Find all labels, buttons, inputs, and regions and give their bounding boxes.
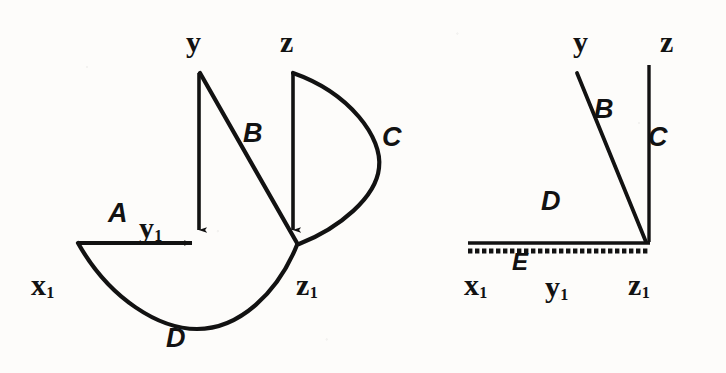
diagram-canvas bbox=[0, 0, 726, 373]
edge-b-line bbox=[200, 73, 297, 243]
label-node-x1-right: x1 bbox=[464, 270, 487, 300]
label-edge-c-left: C bbox=[382, 124, 402, 151]
label-node-y1-left: y1 bbox=[139, 213, 162, 243]
edge-d-curve bbox=[78, 243, 297, 329]
label-edge-a-left: A bbox=[108, 200, 128, 227]
label-node-z1-left: z1 bbox=[296, 270, 318, 300]
label-edge-e-right: E bbox=[512, 250, 528, 274]
label-node-y-right: y bbox=[573, 27, 588, 57]
label-node-x1-left: x1 bbox=[31, 270, 54, 300]
label-edge-c-right: C bbox=[648, 124, 668, 151]
edge-c-arc bbox=[293, 73, 379, 244]
label-node-z-right: z bbox=[660, 27, 673, 57]
label-edge-d-right: D bbox=[541, 188, 561, 215]
label-node-y-left: y bbox=[186, 27, 201, 57]
figure-root: y z x1 y1 z1 A B C D y z x1 y1 z1 B C D … bbox=[0, 0, 726, 373]
right-panel-geometry bbox=[468, 65, 650, 251]
label-edge-b-left: B bbox=[243, 120, 263, 147]
label-edge-d-left: D bbox=[166, 325, 186, 352]
label-node-z1-right: z1 bbox=[628, 270, 650, 300]
label-edge-b-right: B bbox=[594, 96, 614, 123]
label-node-y1-right: y1 bbox=[545, 272, 568, 302]
label-node-z-left: z bbox=[280, 27, 293, 57]
